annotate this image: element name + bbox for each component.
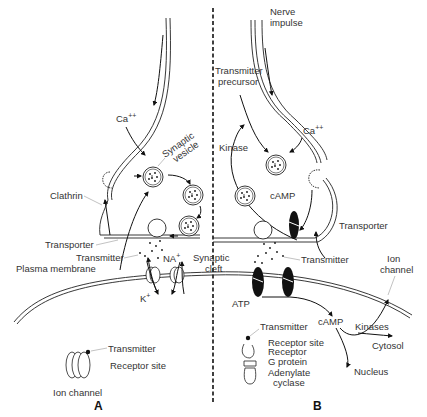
synaptic-vesicle bbox=[266, 155, 286, 175]
label-transmitter-precursor: Transmitterprecursor bbox=[215, 65, 263, 87]
legend-transmitter-a: Transmitter bbox=[108, 343, 156, 354]
label-transmitter-b: Transmitter bbox=[301, 254, 349, 265]
label-transporter-a: Transporter bbox=[45, 239, 94, 250]
label-kinases: Kinases bbox=[355, 321, 389, 332]
synaptic-vesicle bbox=[235, 186, 255, 206]
legend-ion-channel bbox=[66, 348, 107, 378]
panel-label-b: B bbox=[313, 399, 322, 413]
synaptic-vesicle bbox=[183, 185, 203, 205]
label-transmitter-a: Transmitter bbox=[76, 252, 124, 263]
label-nucleus: Nucleus bbox=[354, 366, 389, 377]
label-atp: ATP bbox=[232, 298, 250, 309]
legend-ion-channel-label: Ion channel bbox=[53, 387, 102, 398]
label-plasma-membrane: Plasma membrane bbox=[16, 263, 96, 274]
synaptic-vesicle bbox=[179, 216, 199, 236]
legend-g-protein: G protein bbox=[268, 356, 307, 367]
presynaptic-membrane-a bbox=[100, 18, 200, 235]
legend-transmitter-b: Transmitter bbox=[260, 321, 308, 332]
legend-receptor-site-a: Receptor site bbox=[110, 360, 166, 371]
label-transporter-b: Transporter bbox=[339, 220, 388, 231]
label-camp-upper: cAMP bbox=[270, 190, 295, 201]
presynaptic-membrane-b bbox=[251, 20, 317, 163]
label-ca-b: Ca++ bbox=[303, 124, 323, 136]
label-k: K+ bbox=[140, 292, 150, 304]
label-ion-channel-b: Ionchannel bbox=[380, 253, 413, 275]
transmitter-molecules-b bbox=[254, 242, 284, 264]
label-cytosol: Cytosol bbox=[372, 340, 404, 351]
label-ca-a: Ca++ bbox=[116, 112, 136, 124]
docked-vesicle bbox=[254, 221, 272, 239]
label-synaptic-cleft: Synapticcleft bbox=[193, 252, 230, 274]
legend-adenylate-cyclase: Adenylatecyclase bbox=[268, 367, 310, 388]
label-nerve-impulse: Nerveimpulse bbox=[270, 6, 303, 28]
synaptic-vesicle bbox=[143, 167, 163, 187]
docked-vesicle bbox=[148, 219, 166, 237]
panel-a: Ca++ Synapticvesicle Clathrin Transporte… bbox=[14, 18, 230, 413]
panel-label-a: A bbox=[94, 399, 103, 413]
legend-receptor-complex bbox=[242, 336, 256, 384]
transmitter-molecules-a bbox=[139, 240, 163, 259]
panel-b: Nerveimpulse Transmitterprecursor Ca++ K… bbox=[213, 6, 413, 413]
label-na: NA+ bbox=[163, 252, 180, 264]
label-synaptic-vesicle: Synapticvesicle bbox=[160, 130, 202, 168]
synapse-diagram: Ca++ Synapticvesicle Clathrin Transporte… bbox=[0, 0, 427, 417]
label-camp-lower: cAMP bbox=[318, 316, 343, 327]
label-clathrin: Clathrin bbox=[50, 190, 83, 201]
